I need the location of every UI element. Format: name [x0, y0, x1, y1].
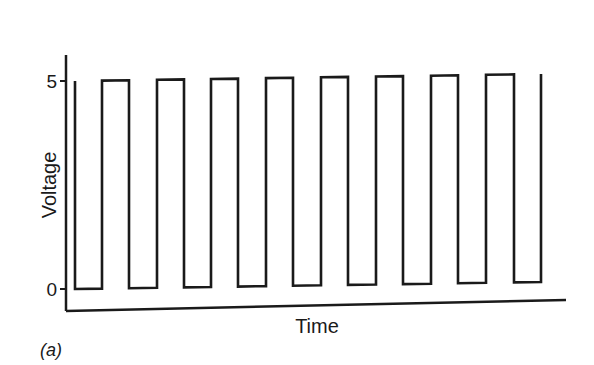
x-axis: [66, 300, 566, 311]
square-wave-trace: [75, 74, 541, 289]
x-axis-title: Time: [295, 315, 339, 337]
panel-label: (a): [40, 340, 62, 360]
y-axis-title: Voltage: [38, 152, 60, 219]
y-tick-label-0: 0: [46, 279, 57, 300]
square-wave-chart: 5 0 Voltage Time (a): [0, 0, 594, 365]
y-tick-label-5: 5: [46, 71, 57, 92]
